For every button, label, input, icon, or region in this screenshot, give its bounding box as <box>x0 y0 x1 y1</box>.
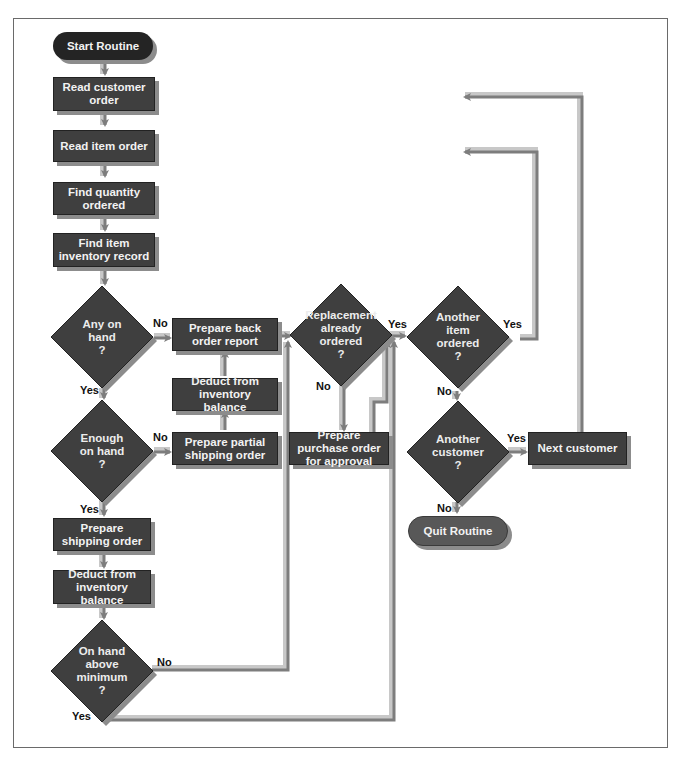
enough-on-hand-line-3: ? <box>98 458 105 471</box>
replacement-line-4: ? <box>337 348 344 361</box>
replacement-no-label: No <box>316 380 331 392</box>
find-inventory-box: Find item inventory record <box>53 233 155 267</box>
partial-shipping-box: Prepare partial shipping order <box>172 432 278 465</box>
minimum-no-label: No <box>157 656 172 668</box>
prepare-shipping-label: Prepare shipping order <box>58 522 146 548</box>
any-on-hand-line-1: Any on <box>83 318 122 331</box>
another-customer-no-label: No <box>437 502 452 514</box>
quit-routine-terminator: Quit Routine <box>408 516 508 546</box>
enough-on-hand-decision: Enough on hand ? <box>51 400 153 502</box>
back-order-box: Prepare back order report <box>172 318 278 351</box>
another-customer-decision: Another customer ? <box>407 401 509 503</box>
start-routine-terminator: Start Routine <box>53 32 153 60</box>
enough-on-hand-line-2: on hand <box>80 445 125 458</box>
enough-on-hand-line-1: Enough <box>81 432 124 445</box>
any-on-hand-no-label: No <box>153 317 168 329</box>
above-minimum-line-3: minimum <box>76 671 127 684</box>
another-customer-yes-label: Yes <box>507 432 526 444</box>
above-minimum-line-2: above <box>85 658 118 671</box>
any-on-hand-line-3: ? <box>98 344 105 357</box>
purchase-order-box: Prepare purchase order for approval <box>289 432 389 465</box>
deduct-partial-box: Deduct from inventory balance <box>172 378 278 411</box>
prepare-shipping-box: Prepare shipping order <box>53 518 151 551</box>
another-item-no-label: No <box>437 385 452 397</box>
enough-yes-label: Yes <box>80 503 99 515</box>
next-customer-label: Next customer <box>538 442 618 455</box>
another-item-line-3: ordered <box>437 337 480 350</box>
another-item-line-1: Another <box>436 311 480 324</box>
read-item-order-box: Read item order <box>53 130 155 162</box>
deduct-main-box: Deduct from inventory balance <box>53 570 151 604</box>
partial-shipping-label: Prepare partial shipping order <box>177 436 273 462</box>
another-item-line-4: ? <box>454 350 461 363</box>
above-minimum-line-1: On hand <box>79 645 126 658</box>
any-on-hand-line-2: hand <box>88 331 115 344</box>
another-customer-line-1: Another <box>436 433 480 446</box>
above-minimum-line-4: ? <box>98 684 105 697</box>
another-item-yes-label: Yes <box>503 318 522 330</box>
minimum-yes-label: Yes <box>72 710 91 722</box>
next-customer-box: Next customer <box>528 432 627 465</box>
deduct-partial-label: Deduct from inventory balance <box>177 375 273 414</box>
replacement-line-1: Replacement <box>305 309 377 322</box>
enough-no-label: No <box>153 431 168 443</box>
another-item-decision: Another item ordered ? <box>407 286 509 388</box>
replacement-ordered-decision: Replacement already ordered ? <box>290 284 392 386</box>
quit-routine-label: Quit Routine <box>424 525 493 538</box>
deduct-main-label: Deduct from inventory balance <box>58 568 146 607</box>
read-customer-order-box: Read customer order <box>53 77 155 111</box>
back-order-label: Prepare back order report <box>177 322 273 348</box>
any-on-hand-decision: Any on hand ? <box>51 286 153 388</box>
read-customer-order-label: Read customer order <box>58 81 150 107</box>
replacement-line-2: already <box>321 322 361 335</box>
above-minimum-decision: On hand above minimum ? <box>51 620 153 722</box>
find-quantity-box: Find quantity ordered <box>53 182 155 215</box>
purchase-order-label: Prepare purchase order for approval <box>294 429 384 468</box>
find-quantity-label: Find quantity ordered <box>58 186 150 212</box>
read-item-order-label: Read item order <box>60 140 148 153</box>
another-item-line-2: item <box>446 324 470 337</box>
start-routine-label: Start Routine <box>67 40 139 53</box>
replacement-line-3: ordered <box>320 335 363 348</box>
find-inventory-label: Find item inventory record <box>58 237 150 263</box>
replacement-yes-label: Yes <box>388 318 407 330</box>
any-on-hand-yes-label: Yes <box>80 384 99 396</box>
another-customer-line-2: customer <box>432 446 484 459</box>
another-customer-line-3: ? <box>454 459 461 472</box>
